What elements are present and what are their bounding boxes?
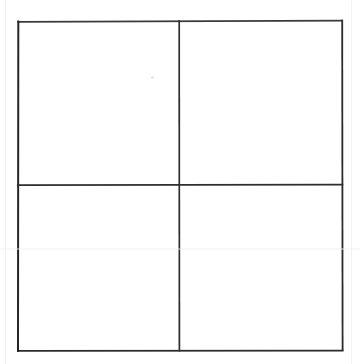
quadrant-top-right-label	[179, 20, 343, 28]
scanned-page	[0, 0, 360, 364]
scan-artifact-left-edge	[5, 0, 6, 364]
quadrant-top-left[interactable]	[17, 20, 179, 185]
quadrant-cells	[17, 20, 343, 351]
quadrant-bottom-left-label	[17, 185, 179, 193]
quadrant-bottom-right-label	[179, 185, 343, 193]
quadrant-grid-figure	[17, 20, 343, 351]
quadrant-top-left-label	[17, 20, 179, 28]
quadrant-bottom-left[interactable]	[17, 185, 179, 351]
quadrant-bottom-right[interactable]	[179, 185, 343, 351]
quadrant-top-right[interactable]	[179, 20, 343, 185]
scan-artifact-right-edge	[351, 0, 352, 364]
